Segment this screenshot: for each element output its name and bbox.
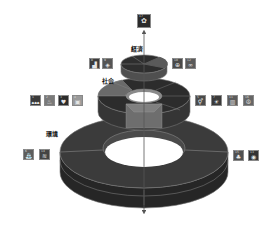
goal-12-icon: 12 ∞ [185,58,196,69]
reduced-inequality-icon: ⊕ [173,61,182,68]
life-on-land-icon: ♣ [234,153,243,160]
economy-label: 経済 [131,45,143,52]
no-poverty-icon: ☗☗☗ [31,100,40,107]
sdgs-wedding-cake-diagram: 17 ✿ 経済 社会 環境 8 ▟ 9 ◈ 10 ⊕ 12 ∞ 1 ☗☗☗ 2 … [0,0,279,230]
peace-icon: ☮ [244,98,253,105]
goal-9-icon: 9 ◈ [102,58,113,69]
goal-8-icon: 8 ▟ [89,58,100,69]
cake-graphic [0,0,279,230]
life-below-water-icon: ≋ [40,152,49,159]
goal-6-icon: 6 ⛲ [23,149,34,160]
goal-4-icon: 4 ▣ [72,95,83,106]
goal-7-icon: 7 ☀ [211,95,222,106]
goal-2-icon: 2 ♨ [44,95,55,106]
goal-3-icon: 3 ♥ [58,95,69,106]
society-label: 社会 [102,77,114,84]
gender-equality-icon: ⚥ [196,98,205,105]
goal-5-icon: 5 ⚥ [195,95,206,106]
goal-11-icon: 11 ▥ [227,95,238,106]
environment-label: 環境 [46,130,58,137]
health-icon: ♥ [59,98,68,105]
clean-water-icon: ⛲ [24,152,33,159]
industry-icon: ◈ [103,61,112,68]
goal-17-icon: 17 ✿ [137,14,151,28]
goal-10-icon: 10 ⊕ [172,58,183,69]
growth-chart-icon: ▟ [90,61,99,68]
zero-hunger-icon: ♨ [45,98,54,105]
cities-icon: ▥ [228,98,237,105]
energy-icon: ☀ [212,98,221,105]
goal-15-icon: 15 ♣ [233,150,244,161]
goal-14-icon: 14 ≋ [39,149,50,160]
infinity-icon: ∞ [186,61,195,68]
climate-action-icon: ◉ [249,153,258,160]
goal-1-icon: 1 ☗☗☗ [30,95,41,106]
partnership-icon: ✿ [138,18,150,25]
goal-13-icon: 13 ◉ [248,150,259,161]
goal-16-icon: 16 ☮ [243,95,254,106]
education-icon: ▣ [73,98,82,105]
